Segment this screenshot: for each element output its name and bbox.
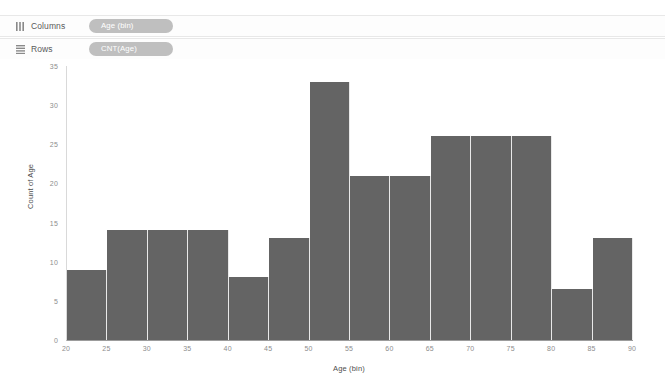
histogram-bar[interactable] bbox=[310, 82, 350, 340]
histogram-bar[interactable] bbox=[390, 176, 430, 340]
y-axis-tick: 10 bbox=[50, 258, 58, 265]
histogram-bar[interactable] bbox=[107, 230, 147, 340]
x-axis-tick: 25 bbox=[102, 345, 110, 352]
histogram-bar[interactable] bbox=[471, 136, 511, 340]
pill-cnt-age[interactable]: CNT(Age) bbox=[89, 42, 173, 56]
histogram-bar[interactable] bbox=[593, 238, 633, 340]
x-axis-tick: 30 bbox=[143, 345, 151, 352]
x-axis-tick: 65 bbox=[426, 345, 434, 352]
histogram-bars bbox=[67, 66, 633, 340]
histogram-bar[interactable] bbox=[229, 277, 269, 340]
plot-area bbox=[66, 66, 633, 341]
y-axis: 05101520253035 bbox=[0, 59, 66, 388]
columns-shelf[interactable]: Columns Age (bin) bbox=[0, 15, 665, 37]
rows-shelf[interactable]: Rows CNT(Age) bbox=[0, 38, 665, 60]
x-axis: 202530354045505560657075808590 bbox=[66, 345, 632, 359]
x-axis-tick: 90 bbox=[628, 345, 636, 352]
y-axis-tick: 35 bbox=[50, 63, 58, 70]
x-axis-tick: 50 bbox=[304, 345, 312, 352]
columns-shelf-label: Columns bbox=[31, 21, 83, 31]
histogram-bar[interactable] bbox=[148, 230, 188, 340]
rows-icon bbox=[12, 45, 28, 54]
histogram-bar[interactable] bbox=[188, 230, 228, 340]
x-axis-title: Age (bin) bbox=[66, 364, 632, 373]
y-axis-tick: 15 bbox=[50, 219, 58, 226]
y-axis-title: Count of Age bbox=[26, 164, 35, 209]
histogram-bar[interactable] bbox=[431, 136, 471, 340]
x-axis-tick: 40 bbox=[224, 345, 232, 352]
pill-age-bin[interactable]: Age (bin) bbox=[89, 19, 173, 33]
histogram-bar[interactable] bbox=[552, 289, 592, 340]
histogram-bar[interactable] bbox=[512, 136, 552, 340]
y-axis-tick: 20 bbox=[50, 180, 58, 187]
x-axis-tick: 60 bbox=[385, 345, 393, 352]
rows-shelf-label: Rows bbox=[31, 44, 83, 54]
x-axis-tick: 70 bbox=[466, 345, 474, 352]
x-axis-tick: 85 bbox=[587, 345, 595, 352]
columns-icon bbox=[12, 22, 28, 31]
x-axis-tick: 75 bbox=[507, 345, 515, 352]
histogram-bar[interactable] bbox=[67, 270, 107, 340]
histogram-bar[interactable] bbox=[350, 176, 390, 340]
y-axis-tick: 0 bbox=[54, 337, 58, 344]
x-axis-tick: 45 bbox=[264, 345, 272, 352]
y-axis-tick: 5 bbox=[54, 297, 58, 304]
x-axis-tick: 35 bbox=[183, 345, 191, 352]
y-axis-tick: 25 bbox=[50, 141, 58, 148]
y-axis-tick: 30 bbox=[50, 102, 58, 109]
shelf-panel: Columns Age (bin) Rows CNT(Age) bbox=[0, 0, 665, 59]
x-axis-tick: 20 bbox=[62, 345, 70, 352]
x-axis-tick: 55 bbox=[345, 345, 353, 352]
chart-canvas[interactable]: 05101520253035 Count of Age 202530354045… bbox=[0, 59, 665, 388]
x-axis-tick: 80 bbox=[547, 345, 555, 352]
histogram-bar[interactable] bbox=[269, 238, 309, 340]
